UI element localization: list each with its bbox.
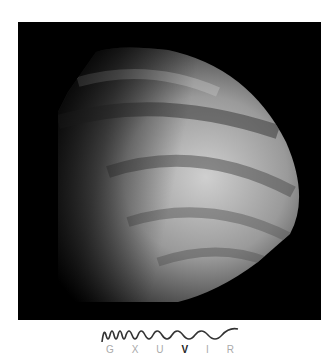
spectrum-labels: G X U V I R bbox=[100, 344, 240, 356]
spectrum-label-gamma: G bbox=[106, 344, 114, 356]
planet-image bbox=[18, 22, 321, 320]
wavelength-spectrum-icon bbox=[100, 325, 240, 345]
spectrum-label-infrared: I bbox=[206, 344, 209, 356]
spectrum-label-xray: X bbox=[132, 344, 139, 356]
spectrum-label-radio: R bbox=[227, 344, 234, 356]
spectrum-label-visible: V bbox=[181, 344, 188, 356]
spectrum-label-ultraviolet: U bbox=[156, 344, 163, 356]
planet-image-panel bbox=[18, 22, 321, 320]
